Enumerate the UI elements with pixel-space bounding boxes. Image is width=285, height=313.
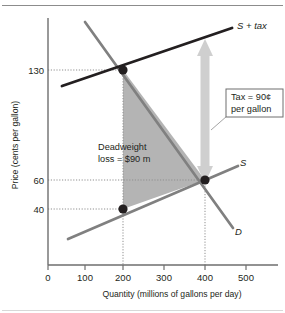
xtick-label-400: 400 (197, 272, 213, 283)
deadweight-loss-label-line2: loss = $90 m (98, 154, 151, 164)
supply-plus-tax-label: S + tax (237, 20, 268, 31)
xtick-label-300: 300 (156, 272, 172, 283)
x-axis-title: Quantity (millions of gallons per day) (103, 289, 242, 299)
xtick-label-500: 500 (238, 272, 254, 283)
economics-tax-deadweight-loss-figure: 130 60 40 0 100 200 300 400 500 Price (c… (0, 0, 285, 313)
bottom-divider (2, 310, 283, 311)
point-no-tax-equilibrium (200, 175, 209, 184)
xtick-label-0: 0 (45, 272, 50, 283)
y-axis-title: Price (cents per gallon) (10, 101, 20, 190)
ytick-label-130: 130 (28, 65, 44, 76)
supply-label: S (240, 157, 247, 168)
chart-canvas: 130 60 40 0 100 200 300 400 500 Price (c… (0, 0, 285, 313)
x-tick-marks (48, 265, 246, 270)
ytick-label-60: 60 (33, 175, 44, 186)
point-with-tax-equilibrium (118, 65, 127, 74)
ytick-label-40: 40 (33, 204, 44, 215)
top-divider (2, 5, 283, 6)
demand-label: D (235, 226, 242, 237)
tax-callout-line2: per gallon (231, 104, 271, 114)
tax-arrow (197, 39, 213, 183)
tax-callout-line1: Tax = 90¢ (231, 92, 271, 102)
deadweight-loss-label-line1: Deadweight (98, 142, 147, 152)
xtick-label-100: 100 (77, 272, 93, 283)
xtick-label-200: 200 (115, 272, 131, 283)
tax-callout-leader (211, 116, 227, 130)
point-seller-price (118, 204, 127, 213)
